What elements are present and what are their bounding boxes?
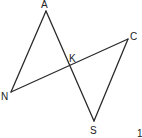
corner-mark: 1 bbox=[137, 128, 142, 138]
label-n: N bbox=[1, 91, 8, 102]
segment-nc bbox=[11, 39, 128, 92]
label-c: C bbox=[130, 31, 137, 42]
segment-an bbox=[11, 11, 46, 92]
label-s: S bbox=[90, 125, 97, 136]
triangle-ank bbox=[11, 11, 128, 121]
segment-cs bbox=[94, 39, 128, 121]
label-k: K bbox=[69, 53, 76, 64]
segment-as bbox=[46, 11, 94, 121]
label-a: A bbox=[41, 0, 48, 10]
geometry-diagram: A N K C S 1 bbox=[0, 0, 142, 138]
